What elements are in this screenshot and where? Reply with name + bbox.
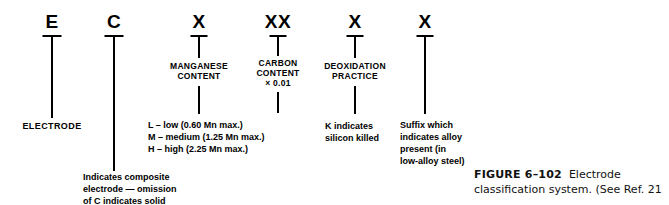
figure-number: FIGURE 6–102 [474, 168, 562, 181]
detail-line: Suffix which [400, 119, 465, 131]
mid-label-line: MANGANESE [170, 61, 228, 71]
detail-line: indicates alloy [400, 131, 465, 143]
leader-line-alloy-suffix [424, 36, 426, 114]
mid-label-line: × 0.01 [256, 78, 299, 88]
code-symbol-carbon: XX [265, 12, 291, 31]
detail-line: electrode — omission [83, 183, 177, 195]
leader-line-manganese-upper [198, 36, 200, 58]
code-symbol-deoxidation: X [348, 12, 361, 31]
code-symbol-manganese: X [192, 12, 205, 31]
mid-label-manganese: MANGANESE CONTENT [170, 61, 228, 81]
detail-line: M – medium (1.25 Mn max.) [148, 131, 265, 143]
detail-line: H – high (2.25 Mn max.) [148, 143, 265, 155]
leader-line-composite [113, 36, 115, 171]
detail-line: L – low (0.60 Mn max.) [148, 119, 265, 131]
mid-label-line: PRACTICE [324, 71, 386, 81]
detail-line: K indicates [325, 120, 379, 132]
leader-line-manganese-lower [198, 86, 200, 114]
mid-label-line: CONTENT [256, 68, 299, 78]
detail-line: present (in [400, 143, 465, 155]
detail-line: of C indicates solid [83, 195, 177, 205]
leader-line-electrode [51, 36, 53, 118]
mid-label-line: CONTENT [170, 71, 228, 81]
leader-line-deoxidation-lower [354, 86, 356, 114]
detail-line: Indicates composite [83, 171, 177, 183]
leader-line-carbon-upper [277, 36, 279, 56]
leader-line-deoxidation-upper [354, 36, 356, 58]
mid-label-carbon: CARBON CONTENT × 0.01 [256, 58, 299, 88]
code-symbol-alloy-suffix: X [418, 12, 431, 31]
bottom-label-electrode: ELECTRODE [22, 121, 81, 132]
detail-text-manganese: L – low (0.60 Mn max.) M – medium (1.25 … [148, 119, 265, 155]
code-symbol-composite: C [107, 12, 121, 31]
detail-text-composite: Indicates composite electrode — omission… [83, 171, 177, 205]
detail-line: silicon killed [325, 132, 379, 144]
detail-line: low-alloy steel) [400, 155, 465, 167]
mid-label-line: DEOXIDATION [324, 61, 386, 71]
detail-text-alloy-suffix: Suffix which indicates alloy present (in… [400, 119, 465, 167]
detail-text-deoxidation: K indicates silicon killed [325, 120, 379, 144]
mid-label-line: CARBON [256, 58, 299, 68]
mid-label-deoxidation: DEOXIDATION PRACTICE [324, 61, 386, 81]
code-symbol-electrode: E [45, 12, 58, 31]
figure-caption: FIGURE 6–102Electrode classification sys… [474, 167, 669, 197]
leader-line-carbon-lower [277, 92, 279, 113]
